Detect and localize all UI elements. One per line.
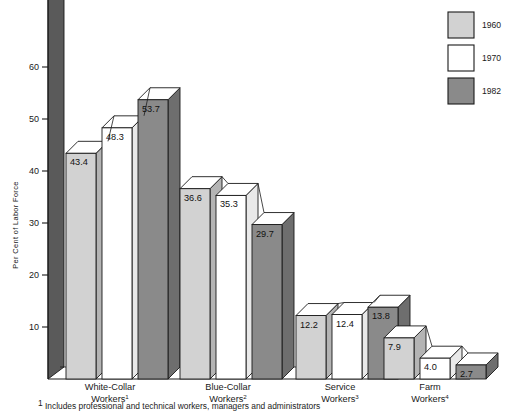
y-axis-tick-label: 60: [29, 62, 39, 72]
bar-side-face: [168, 88, 180, 379]
bar-value-label-1982-3: 2.7: [460, 369, 473, 379]
y-axis-wall: [48, 0, 64, 379]
bar-value-label-1960-3: 7.9: [388, 342, 401, 352]
category-label-sup-3: 4: [445, 393, 449, 400]
category-label-line1-2: Service: [325, 382, 356, 392]
bar-top-connector-3-0: [426, 326, 432, 346]
bar-front-face: [216, 195, 246, 379]
legend-swatch-1960: [448, 12, 474, 38]
legend-swatch-1970: [448, 45, 474, 71]
bar-front-face: [252, 225, 282, 379]
bar-value-label-1960-1: 36.6: [184, 193, 202, 203]
category-label-sup-0: 1: [125, 393, 129, 400]
y-axis-tick-label: 10: [29, 322, 39, 332]
bar-value-label-1960-0: 43.4: [70, 157, 88, 167]
bar-front-face: [180, 189, 210, 379]
bar-front-face: [66, 153, 96, 379]
legend-swatch-1982: [448, 78, 474, 104]
bar-front-face: [138, 100, 168, 379]
footnote-text-0: Includes professional and technical work…: [45, 401, 320, 411]
legend-label-1970: 1970: [482, 53, 501, 63]
category-label-line2-3: Workers4: [411, 393, 449, 404]
bar-value-label-1970-2: 12.4: [336, 319, 354, 329]
y-axis-tick-label: 50: [29, 114, 39, 124]
bar-value-label-1970-1: 35.3: [220, 199, 238, 209]
y-axis-wall-face: [48, 0, 64, 379]
y-axis-title: Per Cent of Labor Force: [11, 181, 20, 268]
grouped-bar-chart: 102030405060Per Cent of Labor Force43.44…: [0, 0, 525, 414]
y-axis-tick-label: 20: [29, 270, 39, 280]
chart-container: 102030405060Per Cent of Labor Force43.44…: [0, 0, 525, 414]
category-label-line1-3: Farm: [419, 382, 441, 392]
bar-front-face: [102, 128, 132, 379]
category-label-sup-1: 2: [243, 393, 247, 400]
bar-side-face: [282, 213, 294, 379]
bar-value-label-1960-2: 12.2: [300, 320, 318, 330]
footnote-marker-0: 1: [38, 398, 43, 408]
bar-top-connector-1-0: [222, 177, 228, 184]
bar-value-label-1970-3: 4.0: [424, 362, 437, 372]
bar-value-label-1982-2: 13.8: [372, 311, 390, 321]
bar-1982-white-collar-workers: [138, 88, 180, 379]
bar-value-label-1982-1: 29.7: [256, 229, 274, 239]
legend-label-1982: 1982: [482, 86, 501, 96]
legend-label-1960: 1960: [482, 20, 501, 30]
bar-top-connector-3-1: [462, 346, 468, 353]
category-label-line1-1: Blue-Collar: [205, 382, 250, 392]
bar-top-connector-1-1: [258, 183, 264, 212]
y-axis-tick-label: 40: [29, 166, 39, 176]
y-axis-tick-label: 30: [29, 218, 39, 228]
category-label-line1-0: White-Collar: [85, 382, 136, 392]
category-label-line2-2: Workers3: [321, 393, 359, 404]
category-label-sup-2: 3: [355, 393, 359, 400]
